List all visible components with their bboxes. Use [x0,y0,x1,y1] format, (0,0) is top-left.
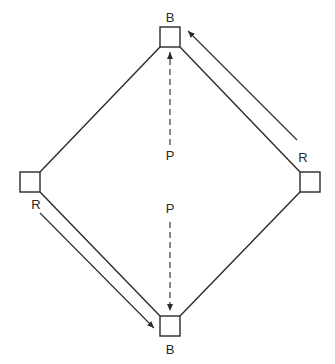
baseline-left-top [40,47,160,172]
arrows [40,31,297,328]
base-left [20,172,40,192]
runner-arrow-right-to-top [188,31,297,140]
baseline-bottom-left [40,192,160,316]
base-right [300,172,320,192]
runner-arrow-left-to-bottom [40,213,154,328]
label-pitcher-top: P [166,148,175,163]
base-top [160,27,180,47]
label-base-top: B [166,10,175,25]
baseline-top-right [180,47,300,172]
diamond-diagram: B R R B P P [0,0,335,364]
label-runner-left: R [31,197,40,212]
baseline-right-bottom [180,192,300,316]
base-bottom [160,316,180,336]
label-pitcher-bottom: P [166,201,175,216]
label-base-bottom: B [166,342,175,357]
label-runner-right: R [298,150,307,165]
